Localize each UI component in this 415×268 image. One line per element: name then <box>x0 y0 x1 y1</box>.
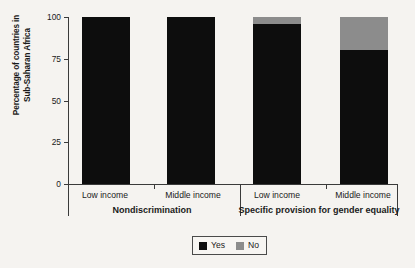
legend-swatch-no-icon <box>236 242 244 250</box>
x-category-label-1: Middle income <box>148 190 238 201</box>
legend-label-yes: Yes <box>211 241 225 250</box>
x-category-label-2: Low income <box>234 190 320 201</box>
bar-segment-yes <box>82 17 130 184</box>
chart-figure: Percentage of countries in Sub-Saharan A… <box>0 0 415 268</box>
y-tick-25 <box>64 142 68 143</box>
legend-swatch-yes-icon <box>199 242 207 250</box>
bar-gender-equality-middle-income[interactable] <box>340 17 388 184</box>
legend-item-yes[interactable]: Yes <box>199 241 225 250</box>
chart-legend: Yes No <box>192 236 267 255</box>
y-axis-label-line-1: Percentage of countries in <box>11 15 22 115</box>
x-category-label-0: Low income <box>62 190 148 201</box>
x-tick-mid-1 <box>154 184 155 189</box>
y-axis-line <box>68 17 69 184</box>
y-tick-label-50: 50 <box>52 96 61 104</box>
bar-segment-no <box>253 17 301 24</box>
bar-segment-yes <box>167 17 215 184</box>
y-tick-75 <box>64 59 68 60</box>
bar-segment-no <box>340 17 388 50</box>
y-tick-label-100: 100 <box>47 13 61 21</box>
bar-gender-equality-low-income[interactable] <box>253 17 301 184</box>
legend-item-no[interactable]: No <box>236 241 259 250</box>
x-tick-mid-3 <box>326 184 327 189</box>
x-category-label-3: Middle income <box>318 190 408 201</box>
plot-area: 0 25 50 75 100 <box>68 17 398 184</box>
y-tick-label-75: 75 <box>52 55 61 63</box>
group-title-gender-equality: Specific provision for gender equality <box>238 205 400 216</box>
bar-nondiscrimination-middle-income[interactable] <box>167 17 215 184</box>
y-tick-label-25: 25 <box>52 138 61 146</box>
y-tick-100 <box>64 17 68 18</box>
y-axis-label: Percentage of countries in Sub-Saharan A… <box>5 0 39 139</box>
bar-nondiscrimination-low-income[interactable] <box>82 17 130 184</box>
legend-label-no: No <box>248 241 259 250</box>
y-tick-50 <box>64 101 68 102</box>
y-axis-label-line-2: Sub-Saharan Africa <box>22 28 33 102</box>
bar-segment-yes <box>340 50 388 184</box>
group-title-nondiscrimination: Nondiscrimination <box>64 205 240 216</box>
y-tick-label-0: 0 <box>56 180 61 188</box>
bar-segment-yes <box>253 24 301 184</box>
x-axis-line <box>68 184 398 185</box>
